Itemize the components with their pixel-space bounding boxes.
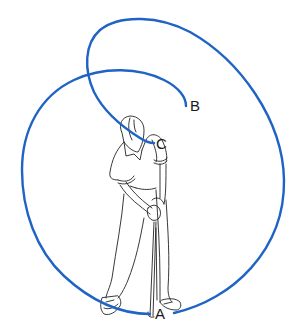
golfer-figure — [101, 116, 181, 317]
label-b: B — [190, 98, 200, 113]
swing-path — [22, 19, 284, 314]
golf-swing-diagram — [0, 0, 297, 333]
label-c: C — [156, 136, 167, 151]
label-a: A — [155, 306, 165, 321]
